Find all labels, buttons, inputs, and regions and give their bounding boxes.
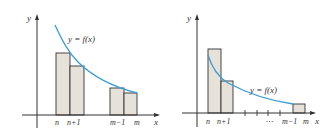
left-curve-label: y = f(x) [67, 34, 95, 44]
right-tick-dots: ⋯ [265, 117, 273, 126]
left-tick-m: m [134, 118, 140, 127]
right-panel: y y = f(x) n n+1 ⋯ m−1 m x [182, 13, 319, 127]
left-panel: y y = f(x) n n+1 m−1 m x [22, 13, 160, 128]
left-bar-n [56, 53, 70, 115]
right-bar-m1 [293, 104, 305, 113]
left-tick-n1: n+1 [67, 118, 80, 127]
left-x-label: x [153, 117, 158, 127]
right-x-arrow-icon [310, 111, 316, 115]
left-tick-m1: m−1 [110, 118, 125, 127]
left-y-arrow-icon [35, 14, 39, 20]
right-tick-m1: m−1 [282, 117, 297, 126]
left-y-label: y [26, 13, 31, 23]
left-bar-m [124, 93, 137, 115]
right-y-arrow-icon [195, 14, 199, 20]
right-x-label: x [314, 116, 319, 126]
right-tick-n1: n+1 [217, 117, 230, 126]
diagram-canvas: y y = f(x) n n+1 m−1 m x y y = f(x) n n+… [0, 0, 333, 138]
right-bar-n1 [221, 81, 233, 113]
right-tick-n: n [206, 117, 210, 126]
left-bar-n1 [70, 66, 84, 115]
left-bar-m1 [110, 88, 124, 115]
left-tick-n: n [55, 118, 59, 127]
right-y-label: y [186, 13, 191, 23]
right-tick-m: m [303, 117, 309, 126]
right-curve-label: y = f(x) [249, 85, 277, 95]
right-bar-n [208, 49, 221, 113]
